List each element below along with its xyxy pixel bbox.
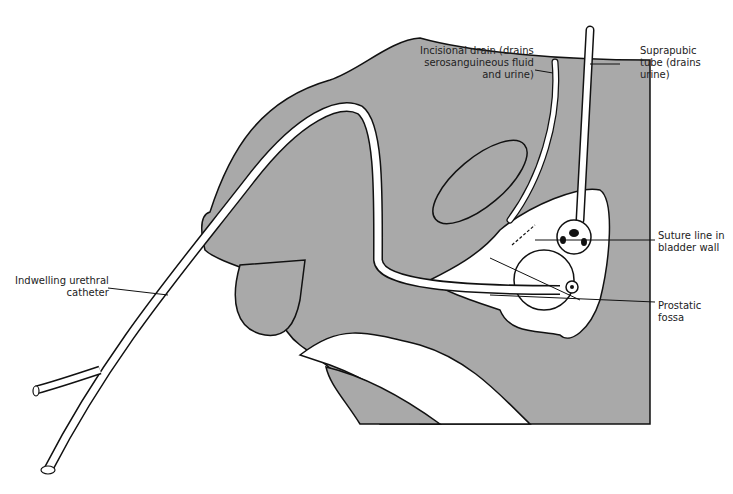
label-suture-line: Suture line in bladder wall xyxy=(658,230,725,254)
label-prostatic-fossa: Prostatic fossa xyxy=(658,300,701,324)
anatomy-diagram xyxy=(0,0,733,494)
label-incisional-drain: Incisional drain (drains serosanguineous… xyxy=(420,45,534,81)
label-suprapubic-tube: Suprapubic tube (drains urine) xyxy=(640,45,701,81)
prostatic-fossa xyxy=(514,250,574,310)
label-urethral-catheter: Indwelling urethral catheter xyxy=(15,275,109,299)
